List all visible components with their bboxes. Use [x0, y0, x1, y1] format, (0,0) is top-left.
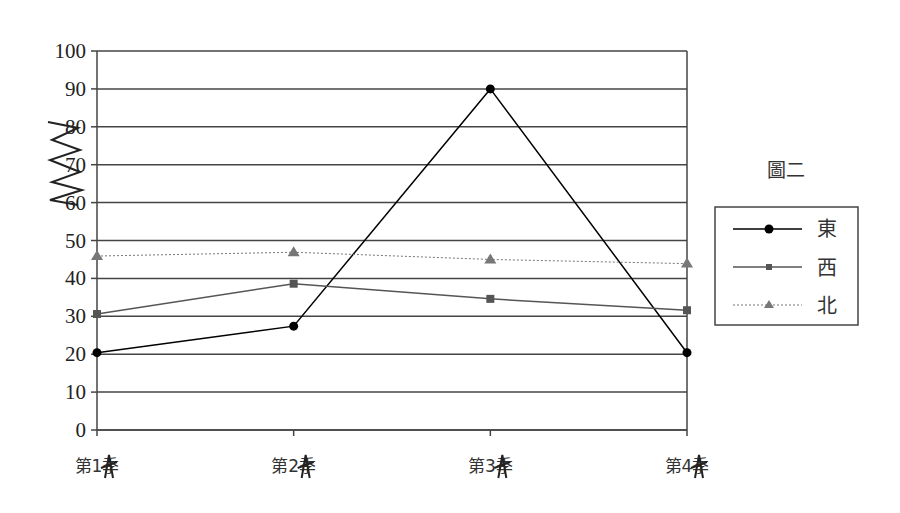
y-tick-label: 0 [76, 418, 87, 442]
y-tick-label: 50 [65, 229, 86, 253]
triangle-marker-icon [288, 246, 300, 256]
square-marker-icon [93, 310, 101, 318]
y-tick-label: 90 [65, 77, 86, 101]
triangle-marker-icon [484, 253, 496, 263]
circle-marker-icon [765, 225, 774, 234]
circle-marker-icon [486, 84, 495, 93]
series-line [97, 252, 687, 263]
line-chart: 0102030405060708090100 第1季第2季第3季第4季 圖二 東… [0, 0, 900, 513]
square-marker-icon [766, 264, 772, 270]
square-marker-icon [683, 306, 691, 314]
svg-text:北: 北 [817, 294, 837, 318]
y-tick-label: 40 [65, 266, 86, 290]
legend-title: 圖二 [767, 159, 805, 181]
y-axis-ticks: 0102030405060708090100 [55, 39, 87, 442]
square-marker-icon [290, 280, 298, 288]
y-tick-label: 10 [65, 380, 86, 404]
series-line [97, 284, 687, 314]
y-tick-label: 100 [55, 39, 87, 63]
triangle-marker-icon [681, 258, 693, 268]
svg-text:西: 西 [817, 256, 837, 280]
y-tick-label: 20 [65, 342, 86, 366]
circle-marker-icon [683, 348, 692, 357]
series-line [97, 89, 687, 353]
y-tick-label: 30 [65, 304, 86, 328]
gridlines [91, 51, 687, 430]
x-axis-ticks: 第1季第2季第3季第4季 [75, 430, 710, 478]
svg-text:東: 東 [817, 217, 837, 241]
circle-marker-icon [289, 322, 298, 331]
square-marker-icon [486, 295, 494, 303]
circle-marker-icon [93, 348, 102, 357]
triangle-marker-icon [91, 250, 103, 260]
